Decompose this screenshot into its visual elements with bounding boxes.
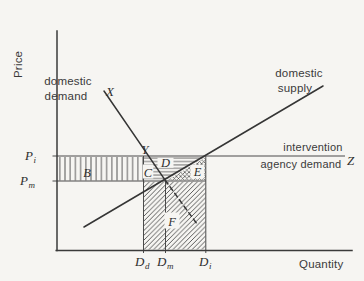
price-intervention-label: Pi [24,148,36,165]
region-c-label: C [144,166,153,180]
figure-canvas: Price Quantity domestic demand domestic … [0,0,364,281]
demand-label-line1: domestic [44,75,92,87]
economics-figure: Price Quantity domestic demand domestic … [0,0,364,281]
region-e-label: E [193,165,202,179]
point-y-label: Y [142,143,151,157]
point-z-label: Z [347,153,355,168]
supply-label-line1: domestic [275,67,323,79]
price-market-label: Pm [19,173,35,190]
region-b-area [59,157,144,181]
quantity-dd-label: Dd [134,254,150,271]
region-b-label: B [83,166,91,180]
quantity-dm-label: Dm [156,254,174,271]
x-axis-label: Quantity [299,258,343,270]
region-d-label: D [160,156,170,170]
demand-label-line2: demand [45,90,88,102]
supply-label-line2: supply [278,82,312,94]
intervention-label-line2: agency demand [261,158,342,170]
quantity-di-label: Di [198,254,212,271]
point-x-label: X [105,84,115,99]
y-axis-label: Price [12,51,24,78]
intervention-label-line1: intervention [283,141,342,153]
region-f-label: F [167,215,176,229]
